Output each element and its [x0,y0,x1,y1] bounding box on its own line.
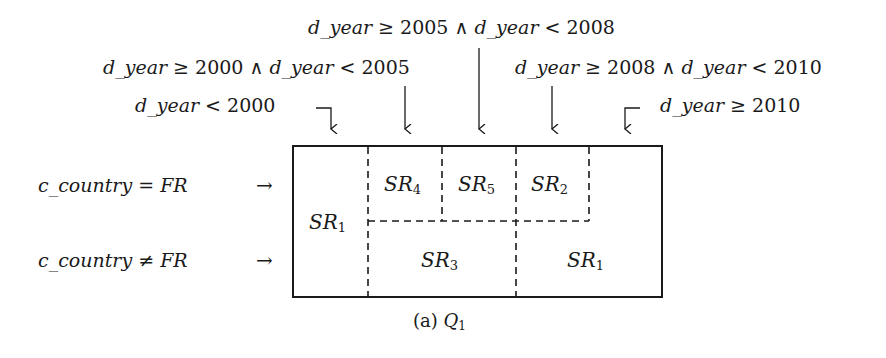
region-sr1-right: SR1 [567,250,604,272]
partition-diagram [0,0,886,358]
region-sr5: SR5 [458,174,495,196]
hook-arrow-icon [625,108,640,129]
region-sr1-left: SR1 [309,212,346,234]
region-sr3: SR3 [421,250,458,272]
figure-caption: (a) Q1 [413,312,466,332]
hook-arrow-icon [316,108,331,129]
region-sr4: SR4 [384,174,421,196]
region-sr2: SR2 [531,174,568,196]
